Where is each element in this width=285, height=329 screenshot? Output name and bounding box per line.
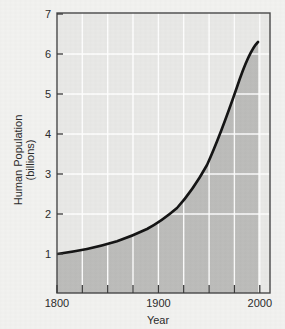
x-axis-title: Year: [147, 314, 170, 326]
y-tick-label-1: 1: [45, 248, 51, 260]
y-tick-label-5: 5: [45, 88, 51, 100]
y-axis-title-line2: (billions): [24, 140, 36, 181]
y-tick-label-3: 3: [45, 168, 51, 180]
figure-human-population: 7 6 5 4 3 2 1 1800 1900 2000 Year Human …: [0, 0, 285, 329]
y-tick-label-6: 6: [45, 48, 51, 60]
x-tick-label-2000: 2000: [248, 297, 272, 309]
x-tick-label-1800: 1800: [45, 297, 69, 309]
y-axis-title-line1: Human Population: [12, 115, 24, 206]
human-population-line-chart: 7 6 5 4 3 2 1 1800 1900 2000 Year Human …: [0, 0, 285, 329]
y-tick-label-2: 2: [45, 208, 51, 220]
y-tick-label-7: 7: [45, 8, 51, 20]
x-tick-label-1900: 1900: [146, 297, 170, 309]
y-tick-label-4: 4: [45, 128, 51, 140]
